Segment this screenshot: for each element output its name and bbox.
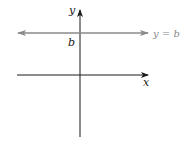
x-axis-label: x	[143, 76, 150, 89]
coordinate-diagram: y b y = b x	[0, 0, 189, 144]
y-axis-label: y	[68, 4, 76, 17]
line-label: y = b	[152, 28, 180, 39]
intercept-label: b	[68, 36, 75, 49]
